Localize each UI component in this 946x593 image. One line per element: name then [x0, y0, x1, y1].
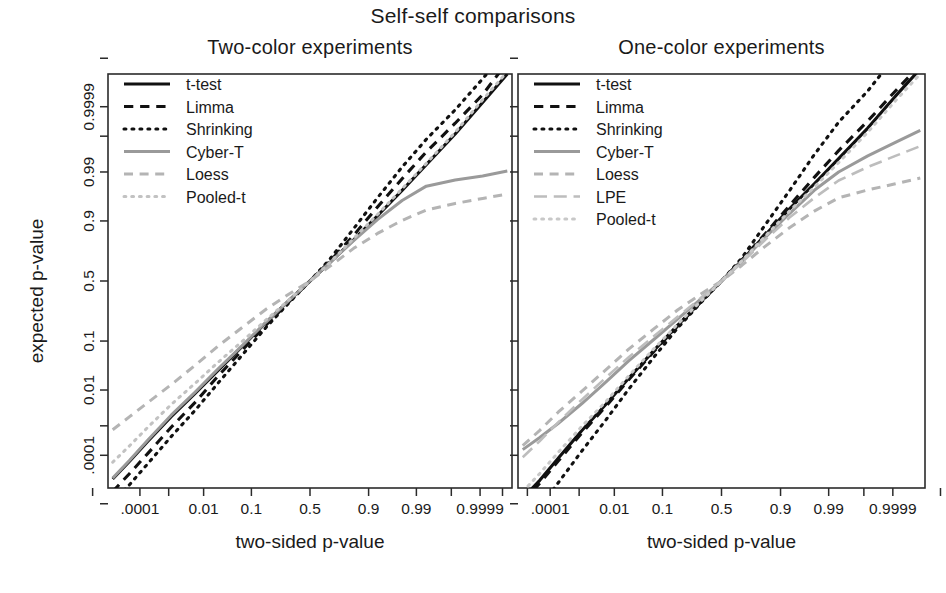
y-tick-label: 0.99: [80, 157, 97, 187]
legend-label-cyber-t: Cyber-T: [186, 144, 244, 161]
series-line: [523, 27, 921, 527]
series-line: [113, 171, 508, 478]
legend-label-shrinking: Shrinking: [186, 121, 253, 138]
legend-label-cyber-t: Cyber-T: [596, 144, 654, 161]
legend-label-loess: Loess: [596, 166, 639, 183]
legend-label-pooled-t: Pooled-t: [186, 189, 246, 206]
legend-label-shrinking: Shrinking: [596, 121, 663, 138]
series-line: [113, 62, 508, 491]
legend-label-pooled-t: Pooled-t: [596, 211, 656, 228]
x-tick-label: 0.9999: [869, 500, 916, 517]
x-tick-label: 0.5: [299, 500, 321, 517]
y-tick-label: 0.9: [80, 210, 97, 232]
legend-label-limma: Limma: [186, 99, 234, 116]
x-tick-label: 0.01: [599, 500, 629, 517]
legend-label-loess: Loess: [186, 166, 229, 183]
series-line: [523, 130, 921, 449]
x-tick-label: 0.9: [358, 500, 380, 517]
series-line: [113, 194, 508, 430]
y-tick-label: 0.1: [80, 330, 97, 352]
y-tick-label: .0001: [80, 436, 97, 475]
x-tick-label: 0.99: [814, 500, 844, 517]
y-tick-label: 0.9999: [80, 83, 97, 130]
x-tick-label: 0.5: [711, 500, 733, 517]
series-line: [523, 65, 921, 502]
plot-area: .00010.010.10.50.90.990.9999.00010.010.1…: [0, 0, 946, 593]
legend-label-limma: Limma: [596, 99, 644, 116]
series-line: [523, 69, 921, 498]
x-tick-label: 0.99: [401, 500, 431, 517]
series-line: [113, 72, 508, 462]
x-tick-label: 0.9999: [456, 500, 503, 517]
legend-label-t-test: t-test: [186, 76, 222, 93]
legend: t-testLimmaShrinkingCyber-TLoessPooled-t: [124, 76, 253, 206]
series-line: [113, 50, 508, 502]
panel-right: .00010.010.10.50.90.990.9999t-testLimmaS…: [503, 27, 941, 527]
x-tick-label: 0.01: [189, 500, 219, 517]
x-tick-label: .0001: [531, 500, 570, 517]
series-line: [113, 74, 508, 479]
legend-label-lpe: LPE: [596, 189, 626, 206]
legend-label-t-test: t-test: [596, 76, 632, 93]
series-line: [523, 178, 921, 446]
y-tick-label: 0.5: [80, 270, 97, 292]
x-tick-label: 0.1: [652, 500, 674, 517]
x-tick-label: .0001: [121, 500, 160, 517]
y-tick-label: 0.01: [80, 375, 97, 405]
x-tick-label: 0.9: [770, 500, 792, 517]
figure-canvas: Self-self comparisons Two-color experime…: [0, 0, 946, 593]
panel-left: .00010.010.10.50.90.990.9999.00010.010.1…: [80, 50, 527, 517]
legend: t-testLimmaShrinkingCyber-TLoessLPEPoole…: [534, 76, 663, 228]
x-tick-label: 0.1: [241, 500, 263, 517]
